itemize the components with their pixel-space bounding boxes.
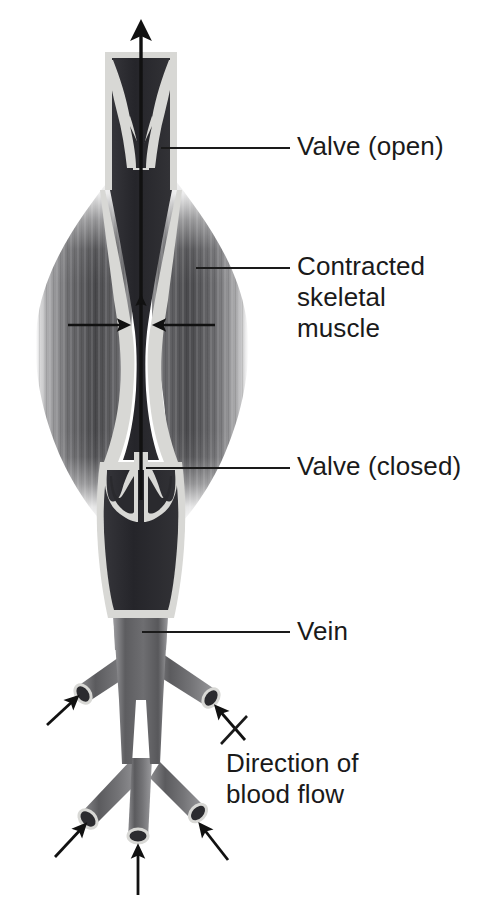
label-direction-line2: blood flow: [226, 779, 344, 809]
label-valve-closed: Valve (closed): [297, 451, 461, 482]
label-direction-of-blood-flow: Direction ofblood flow: [226, 748, 359, 810]
label-muscle-line1: Contracted: [297, 251, 425, 281]
vein-tributary-branches: [72, 612, 223, 843]
branch-inflow-arrow-lower-right: [203, 828, 228, 860]
branch-inflow-arrow-upper-right: [219, 710, 245, 740]
label-muscle-line2: skeletal: [297, 282, 386, 312]
vein-muscle-pump-figure: Valve (open) Contractedskeletalmuscle Va…: [0, 0, 482, 914]
label-valve-open: Valve (open): [297, 131, 444, 162]
label-contracted-skeletal-muscle: Contractedskeletalmuscle: [297, 251, 425, 344]
branch-lower-center: [128, 758, 152, 838]
label-vein: Vein: [297, 616, 348, 647]
label-direction-line1: Direction of: [226, 748, 359, 778]
branch-inflow-arrow-upper-left: [47, 700, 74, 725]
branch-inflow-arrow-lower-left: [55, 828, 82, 857]
branch-opening-lower-center: [128, 829, 148, 843]
label-muscle-line3: muscle: [297, 313, 380, 343]
